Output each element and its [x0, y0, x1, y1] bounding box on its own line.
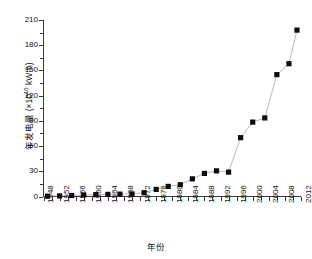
data-point-1991: [214, 168, 219, 173]
data-point-1955: [69, 193, 74, 198]
data-point-1952: [57, 193, 62, 198]
series-markers: [45, 27, 300, 198]
data-point-2006: [274, 72, 279, 77]
data-point-1961: [93, 192, 98, 197]
data-point-1970: [129, 191, 134, 196]
data-point-1967: [117, 192, 122, 197]
data-point-1979: [166, 184, 171, 189]
data-point-2011: [294, 27, 299, 32]
data-point-1988: [202, 171, 207, 176]
data-point-1994: [226, 170, 231, 175]
data-point-1997: [238, 135, 243, 140]
data-point-1976: [154, 187, 159, 192]
data-point-1973: [141, 190, 146, 195]
data-point-1958: [81, 192, 86, 197]
data-point-2000: [250, 120, 255, 125]
plot-area: [0, 0, 312, 259]
data-point-1964: [105, 192, 110, 197]
data-point-1949: [45, 194, 50, 199]
series-line: [48, 30, 297, 196]
data-point-1982: [178, 182, 183, 187]
data-point-1985: [190, 176, 195, 181]
chart-container: 年发电量 (×1010 kW·h) 年份 0306090120150180210…: [0, 0, 312, 259]
data-point-2009: [286, 61, 291, 66]
data-point-2003: [262, 115, 267, 120]
